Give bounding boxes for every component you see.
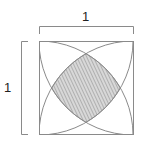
top-dimension-label: 1 xyxy=(82,10,89,23)
top-dimension-bracket xyxy=(40,27,134,35)
square-arcs-figure xyxy=(0,0,144,143)
left-dimension-label: 1 xyxy=(4,81,11,94)
left-dimension-bracket xyxy=(22,42,29,135)
shaded-region xyxy=(52,54,121,123)
